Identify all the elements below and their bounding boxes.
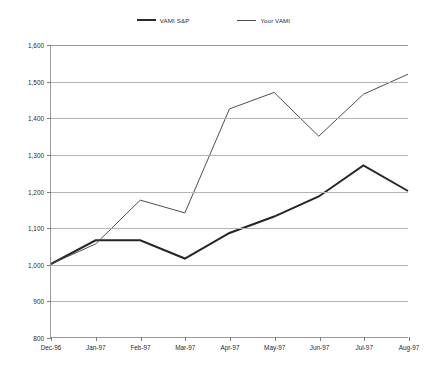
y-axis-tick [47, 301, 51, 302]
x-axis-label: Mar-97 [175, 344, 195, 351]
y-axis-label: 1,500 [28, 78, 44, 85]
legend-label: VAMI S&P [160, 17, 190, 24]
y-axis-tick [47, 192, 51, 193]
y-axis-tick [47, 228, 51, 229]
y-axis-label: 1,400 [28, 115, 44, 122]
y-axis-tick [47, 265, 51, 266]
gridline [51, 45, 408, 46]
gridline [51, 192, 408, 193]
legend-item-vami-sp: VAMI S&P [137, 17, 190, 24]
x-axis-tick [320, 337, 321, 341]
y-axis-tick [47, 118, 51, 119]
x-axis-tick [409, 337, 410, 341]
legend-line-swatch-icon [137, 19, 156, 21]
gridline [51, 82, 408, 83]
y-axis-label: 800 [33, 335, 44, 342]
y-axis-label: 1,300 [28, 151, 44, 158]
gridline [51, 155, 408, 156]
y-axis-tick [47, 45, 51, 46]
plot-area: 1,6001,5001,4001,3001,2001,1001,00090080… [50, 45, 408, 338]
x-axis-tick [141, 337, 142, 341]
x-axis-label: Aug-97 [399, 344, 420, 351]
x-axis-tick [230, 337, 231, 341]
series-line-vami-s-p [51, 165, 408, 264]
x-axis-label: Apr-97 [220, 344, 239, 351]
x-axis-tick [96, 337, 97, 341]
gridline [51, 301, 408, 302]
x-axis-label: Jul-97 [356, 344, 373, 351]
x-axis-label: Feb-97 [130, 344, 150, 351]
x-axis-tick [364, 337, 365, 341]
y-axis-label: 1,000 [28, 261, 44, 268]
y-axis-tick [47, 155, 51, 156]
x-axis-label: May-97 [264, 344, 285, 351]
chart-legend: VAMI S&P Your VAMI [0, 10, 427, 30]
x-axis-tick [275, 337, 276, 341]
legend-label: Your VAMI [260, 17, 290, 24]
series-line-your-vami [51, 74, 408, 264]
gridline [51, 265, 408, 266]
y-axis-label: 1,100 [28, 225, 44, 232]
y-axis-label: 1,200 [28, 188, 44, 195]
vami-line-chart: VAMI S&P Your VAMI 1,6001,5001,4001,3001… [0, 0, 427, 389]
x-axis-label: Dec-96 [41, 344, 62, 351]
gridline [51, 118, 408, 119]
x-axis-label: Jun-97 [310, 344, 330, 351]
y-axis-label: 900 [33, 298, 44, 305]
y-axis-tick [47, 82, 51, 83]
gridline [51, 228, 408, 229]
legend-line-swatch-icon [237, 20, 256, 21]
legend-item-your-vami: Your VAMI [237, 17, 290, 24]
x-axis-tick [185, 337, 186, 341]
x-axis-tick [51, 337, 52, 341]
x-axis-label: Jan-97 [86, 344, 106, 351]
y-axis-label: 1,600 [28, 42, 44, 49]
